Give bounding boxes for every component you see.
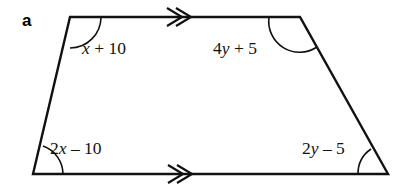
angle-label-bottom-left: 2x – 10 — [50, 140, 102, 158]
angle-label-top-right: 4y + 5 — [213, 40, 257, 58]
trapezoid-diagram — [0, 0, 401, 191]
geometry-figure: a x + 10 4y + 5 2x – 10 2y – 5 — [0, 0, 401, 191]
angle-label-bottom-right: 2y – 5 — [302, 140, 345, 158]
part-label-a: a — [22, 12, 31, 29]
angle-label-top-left: x + 10 — [82, 40, 126, 58]
